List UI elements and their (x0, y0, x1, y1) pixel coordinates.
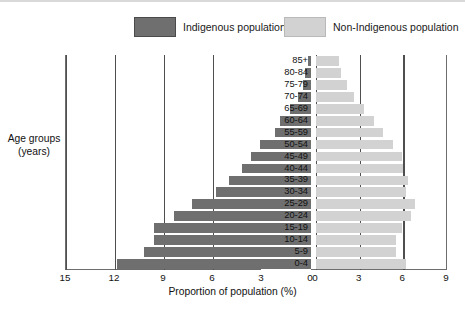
bar-non-indigenous (316, 116, 374, 126)
age-group-label: 50-54 (263, 139, 308, 151)
bar-non-indigenous (316, 223, 402, 233)
bar-row: 70-74 (66, 91, 448, 103)
bar-non-indigenous (316, 68, 341, 78)
bar-row: 15-19 (66, 222, 448, 234)
x-axis-ticks: 151296300369 (0, 272, 465, 286)
bar-non-indigenous (316, 104, 364, 114)
legend-label-indigenous: Indigenous population (183, 22, 286, 33)
bar-row: 45-49 (66, 151, 448, 163)
scan-edge (0, 0, 465, 2)
bar-row: 30-34 (66, 186, 448, 198)
bar-row: 55-59 (66, 127, 448, 139)
bar-non-indigenous (316, 164, 403, 174)
y-axis-title: Age groups (years) (3, 133, 65, 158)
x-tick-left-6: 6 (209, 272, 214, 283)
age-group-label: 60-64 (263, 115, 308, 127)
bar-row: 50-54 (66, 139, 448, 151)
age-group-label: 35-39 (263, 174, 308, 186)
bar-non-indigenous (316, 80, 347, 90)
y-axis-title-line-2: (years) (3, 146, 65, 159)
x-tick-left-15: 15 (60, 272, 71, 283)
bar-non-indigenous (316, 187, 406, 197)
population-pyramid-chart: Indigenous population Non-Indigenous pop… (0, 0, 465, 313)
bar-non-indigenous (316, 199, 415, 209)
age-group-label: 85+ (263, 55, 308, 67)
x-tick-left-3: 3 (258, 272, 263, 283)
age-group-label: 15-19 (263, 222, 308, 234)
chart-legend: Indigenous population Non-Indigenous pop… (0, 16, 465, 40)
x-tick-right-3: 3 (356, 272, 361, 283)
age-group-label: 75-79 (263, 79, 308, 91)
legend-item-indigenous: Indigenous population (134, 16, 286, 38)
legend-label-non-indigenous: Non-Indigenous population (333, 22, 459, 33)
bar-non-indigenous (316, 140, 393, 150)
age-group-label: 0-4 (263, 258, 308, 270)
x-axis-title: Proportion of population (%) (0, 286, 465, 297)
bar-row: 85+ (66, 55, 448, 67)
age-group-label: 45-49 (263, 151, 308, 163)
plot-area: 85+80-8475-7970-7465-6960-6455-5950-5445… (65, 55, 447, 270)
age-group-label: 80-84 (263, 67, 308, 79)
bar-non-indigenous (316, 247, 396, 257)
age-group-label: 20-24 (263, 210, 308, 222)
bar-non-indigenous (316, 56, 339, 66)
bar-row: 0-4 (66, 258, 448, 270)
bar-row: 75-79 (66, 79, 448, 91)
age-group-label: 55-59 (263, 127, 308, 139)
y-axis-title-line-1: Age groups (3, 133, 65, 146)
bar-non-indigenous (316, 235, 396, 245)
bar-rows: 85+80-8475-7970-7465-6960-6455-5950-5445… (66, 55, 448, 270)
age-group-label: 25-29 (263, 198, 308, 210)
bar-non-indigenous (316, 176, 408, 186)
bar-non-indigenous (316, 211, 411, 221)
x-tick-right-6: 6 (400, 272, 405, 283)
bar-non-indigenous (316, 152, 402, 162)
bar-row: 80-84 (66, 67, 448, 79)
age-group-label: 10-14 (263, 234, 308, 246)
x-tick-left-9: 9 (160, 272, 165, 283)
bar-row: 60-64 (66, 115, 448, 127)
legend-item-non-indigenous: Non-Indigenous population (284, 16, 459, 38)
bar-row: 35-39 (66, 174, 448, 186)
bar-indigenous (308, 56, 311, 66)
bar-non-indigenous (316, 128, 383, 138)
bar-row: 10-14 (66, 234, 448, 246)
bar-non-indigenous (316, 259, 406, 269)
age-group-label: 65-69 (263, 103, 308, 115)
legend-swatch-indigenous (134, 17, 176, 37)
x-tick-left-12: 12 (109, 272, 120, 283)
bar-row: 65-69 (66, 103, 448, 115)
age-group-label: 5-9 (263, 246, 308, 258)
bar-row: 25-29 (66, 198, 448, 210)
x-tick-right-0: 0 (312, 272, 317, 283)
age-group-label: 70-74 (263, 91, 308, 103)
x-tick-right-9: 9 (443, 272, 448, 283)
age-group-label: 30-34 (263, 186, 308, 198)
bar-non-indigenous (316, 92, 354, 102)
bar-row: 20-24 (66, 210, 448, 222)
age-group-label: 40-44 (263, 163, 308, 175)
legend-swatch-non-indigenous (284, 17, 326, 37)
bar-row: 40-44 (66, 163, 448, 175)
bar-row: 5-9 (66, 246, 448, 258)
